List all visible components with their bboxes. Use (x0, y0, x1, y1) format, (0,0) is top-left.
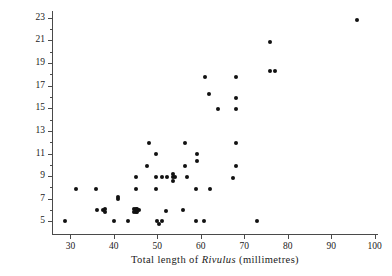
x-axis-tick-label: 80 (283, 242, 293, 252)
y-axis-tick (48, 131, 53, 132)
y-axis-tick-label: 21 (36, 36, 46, 46)
data-point (194, 219, 198, 223)
data-point (160, 175, 164, 179)
x-axis-tick-label: 60 (196, 242, 206, 252)
y-axis-minor-tick (50, 120, 53, 121)
y-axis-tick (48, 199, 53, 200)
x-axis-title: Total length of Rivulus (millimetres) (52, 254, 378, 265)
y-axis-minor-tick (50, 29, 53, 30)
data-point (234, 96, 238, 100)
x-axis-tick (70, 234, 71, 239)
y-axis-tick-label: 13 (36, 126, 46, 136)
x-axis-tick-label: 40 (109, 242, 119, 252)
data-point (137, 208, 141, 212)
data-point (273, 69, 277, 73)
x-axis-tick-label: 70 (240, 242, 250, 252)
data-point (234, 164, 238, 168)
data-point (355, 18, 359, 22)
y-axis-minor-tick (50, 52, 53, 53)
data-point (234, 75, 238, 79)
y-axis-tick-label: 17 (36, 81, 46, 91)
data-point (231, 176, 235, 180)
y-axis-tick-label: 9 (40, 171, 45, 181)
data-point (95, 208, 99, 212)
data-point (183, 164, 187, 168)
data-point (234, 141, 238, 145)
data-point (183, 141, 187, 145)
y-axis-minor-tick (50, 187, 53, 188)
data-point (268, 40, 272, 44)
species-name: Rivulus (202, 254, 236, 265)
data-point (202, 219, 206, 223)
data-point (255, 219, 259, 223)
x-axis-tick (157, 234, 158, 239)
data-point (154, 187, 158, 191)
data-point (195, 152, 199, 156)
x-axis-tick (288, 234, 289, 239)
data-point (185, 175, 189, 179)
x-axis-tick (375, 234, 376, 239)
y-axis-tick (48, 18, 53, 19)
y-axis-tick (48, 86, 53, 87)
x-axis-tick (244, 234, 245, 239)
y-axis-tick-label: 15 (36, 104, 46, 114)
data-point (194, 187, 198, 191)
y-axis-minor-tick (50, 165, 53, 166)
data-point (171, 179, 175, 183)
plot-area: 57911131517192123 30405060708090100 (52, 11, 378, 235)
data-point (268, 69, 272, 73)
data-point (234, 107, 238, 111)
y-axis-minor-tick (50, 97, 53, 98)
axis-title-text: Total length of (131, 254, 202, 265)
y-axis-tick (48, 40, 53, 41)
data-point (207, 92, 211, 96)
axis-title-text: (millimetres) (236, 254, 299, 265)
y-axis-tick-label: 5 (40, 217, 45, 227)
data-point (103, 207, 107, 211)
y-axis-tick (48, 154, 53, 155)
data-point (154, 152, 158, 156)
data-point (112, 219, 116, 223)
data-point (195, 159, 199, 163)
data-point (63, 219, 67, 223)
scatter-plot-figure: 57911131517192123 30405060708090100 Tota… (0, 0, 392, 276)
data-point (126, 219, 130, 223)
y-axis-minor-tick (50, 210, 53, 211)
data-point (203, 75, 207, 79)
data-point (154, 175, 158, 179)
data-point (165, 175, 169, 179)
x-axis-tick-label: 50 (153, 242, 163, 252)
data-point (147, 141, 151, 145)
data-point (173, 175, 177, 179)
data-point (164, 209, 168, 213)
data-point (74, 187, 78, 191)
x-axis-tick (331, 234, 332, 239)
data-point (208, 187, 212, 191)
x-axis-tick-label: 30 (66, 242, 76, 252)
y-axis-tick (48, 221, 53, 222)
y-axis-tick (48, 63, 53, 64)
data-point (134, 187, 138, 191)
data-point (160, 219, 164, 223)
y-axis-tick-label: 19 (36, 58, 46, 68)
y-axis-tick (48, 108, 53, 109)
data-point (145, 164, 149, 168)
data-point (181, 208, 185, 212)
y-axis-minor-tick (50, 74, 53, 75)
y-axis-minor-tick (50, 142, 53, 143)
data-points-layer (53, 11, 378, 234)
x-axis-tick (114, 234, 115, 239)
y-axis-tick-label: 23 (36, 13, 46, 23)
x-axis-tick-label: 100 (368, 242, 382, 252)
data-point (216, 107, 220, 111)
x-axis-tick-label: 90 (326, 242, 336, 252)
data-point (134, 175, 138, 179)
y-axis-tick (48, 176, 53, 177)
data-point (116, 195, 120, 199)
y-axis-tick-label: 7 (40, 194, 45, 204)
data-point (94, 187, 98, 191)
y-axis-tick-label: 11 (36, 149, 45, 159)
x-axis-tick (201, 234, 202, 239)
